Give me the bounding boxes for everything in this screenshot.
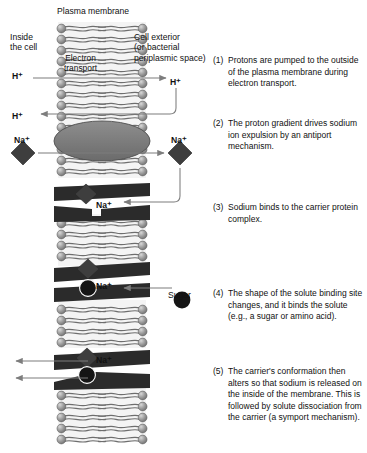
label-cell-exterior: Cell exterior (or bacterial periplasmic … (134, 32, 206, 63)
step-4-text: The shape of the solute binding site cha… (228, 288, 365, 323)
antiporter-protein (54, 121, 150, 161)
step-1-text: Protons are pumped to the outside of the… (228, 55, 365, 90)
step-5-number: (5) (213, 366, 228, 378)
step-4-number: (4) (213, 288, 228, 300)
step-1-number: (1) (213, 55, 228, 67)
label-inside-the-cell: Inside the cell (10, 32, 37, 53)
figure-title: Plasma membrane (57, 6, 129, 16)
sugar-released-step5 (79, 367, 96, 384)
step-2-text: The proton gradient drives sodium ion ex… (228, 118, 365, 153)
step-3-number: (3) (213, 202, 228, 214)
label-sodium-inside: Na⁺ (14, 135, 30, 145)
step-2-number: (2) (213, 118, 228, 130)
step-1: (1) Protons are pumped to the outside of… (213, 55, 365, 90)
label-proton-inside-lower: H⁺ (12, 111, 23, 121)
step-3-text: Sodium binds to the carrier protein comp… (228, 202, 365, 225)
figure-canvas: Plasma membrane Inside the cell Cell ext… (0, 0, 367, 453)
label-proton-outside: H⁺ (170, 77, 181, 87)
label-sodium-step4: Na⁺ (96, 281, 112, 291)
label-sodium-outside: Na⁺ (171, 135, 187, 145)
sugar-bound-step4 (80, 280, 97, 297)
label-sodium-step5: Na⁺ (96, 355, 112, 365)
label-proton-inside-upper: H⁺ (12, 71, 23, 81)
step-5: (5) The carrier's conformation then alte… (213, 366, 365, 424)
label-electron-transport: Electron transport (64, 53, 97, 74)
label-sugar: Sugar (168, 290, 191, 300)
step-5-text: The carrier's conformation then alters s… (228, 366, 365, 424)
step-3: (3) Sodium binds to the carrier protein … (213, 202, 365, 225)
step-2: (2) The proton gradient drives sodium io… (213, 118, 365, 153)
step-4: (4) The shape of the solute binding site… (213, 288, 365, 323)
label-sodium-step3: Na⁺ (96, 200, 112, 210)
